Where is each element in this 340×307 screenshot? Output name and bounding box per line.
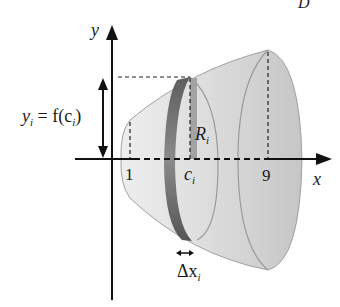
solid-of-revolution-diagram: D y x 1 9 ci yi = f(ci) Ri Δxi [0,0,340,307]
yi-arrow-down-head [98,146,108,158]
yi-arrow-up-head [98,78,108,90]
y-axis-arrowhead [106,25,118,40]
delta-x-label: Δxi [177,261,201,283]
yi-equation-label: yi = f(ci) [20,106,81,128]
x-axis-arrowhead [316,153,332,165]
radius-bar [190,78,197,159]
delta-x-arrow-left-head [176,250,181,256]
tick-label-1: 1 [125,165,134,184]
delta-x-arrow-right-head [189,250,194,256]
x-axis-label: x [312,169,321,189]
y-axis-label: y [89,20,99,40]
corner-label: D [297,0,310,11]
tick-label-9: 9 [262,166,271,185]
